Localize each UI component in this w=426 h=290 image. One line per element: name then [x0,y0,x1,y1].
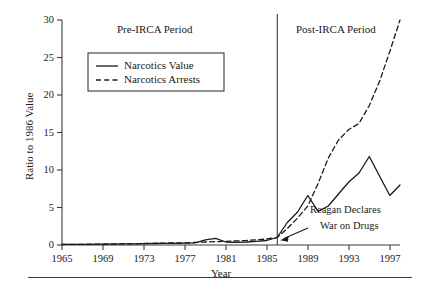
x-tick-1985: 1985 [247,254,287,265]
y-axis [57,20,62,245]
y-tick-5: 5 [36,203,54,214]
x-axis [62,245,400,250]
pre-irca-period-label: Pre-IRCA Period [117,24,192,35]
x-tick-1969: 1969 [83,254,123,265]
x-tick-1997: 1997 [370,254,410,265]
post-irca-period-label: Post-IRCA Period [296,24,376,35]
legend-item-narcotics-value: Narcotics Value [124,60,194,71]
x-tick-1973: 1973 [124,254,164,265]
x-tick-1993: 1993 [329,254,369,265]
chart-canvas [0,0,426,290]
y-tick-20: 20 [36,90,54,101]
y-tick-30: 30 [36,15,54,26]
annotation-arrow [280,228,308,242]
y-tick-15: 15 [36,128,54,139]
y-axis-title: Ratio to 1986 Value [24,93,35,180]
x-tick-1977: 1977 [165,254,205,265]
annotation-reagan-line1: Reagan Declares [310,205,381,216]
bottom-divider-rule [28,277,412,278]
y-tick-25: 25 [36,53,54,64]
y-tick-0: 0 [36,240,54,251]
chart-figure: 30 25 20 15 10 5 0 Ratio to 1986 Value 1… [0,0,426,290]
legend-item-narcotics-arrests: Narcotics Arrests [124,74,200,85]
y-tick-10: 10 [36,165,54,176]
x-tick-1981: 1981 [206,254,246,265]
annotation-reagan-line2: War on Drugs [320,221,379,232]
x-tick-1965: 1965 [42,254,82,265]
x-tick-1989: 1989 [288,254,328,265]
